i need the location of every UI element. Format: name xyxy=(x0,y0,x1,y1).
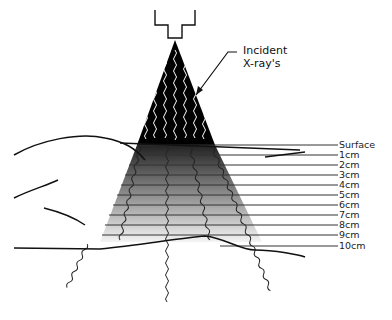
annotation-arrow xyxy=(196,52,237,95)
incident-xrays-label: Incident X-ray's xyxy=(243,45,287,70)
diagram-graphic xyxy=(0,0,392,320)
xray-depth-diagram: Incident X-ray's Surface 1cm 2cm 3cm 4cm… xyxy=(0,0,392,320)
xray-source-icon xyxy=(155,10,195,38)
beam-cone xyxy=(137,40,215,145)
depth-label-10cm: 10cm xyxy=(339,241,366,251)
label-line-1: Incident xyxy=(243,45,287,58)
beam-tissue xyxy=(100,145,262,242)
label-line-2: X-ray's xyxy=(243,58,287,71)
depth-label-9cm: 9cm xyxy=(339,230,360,240)
